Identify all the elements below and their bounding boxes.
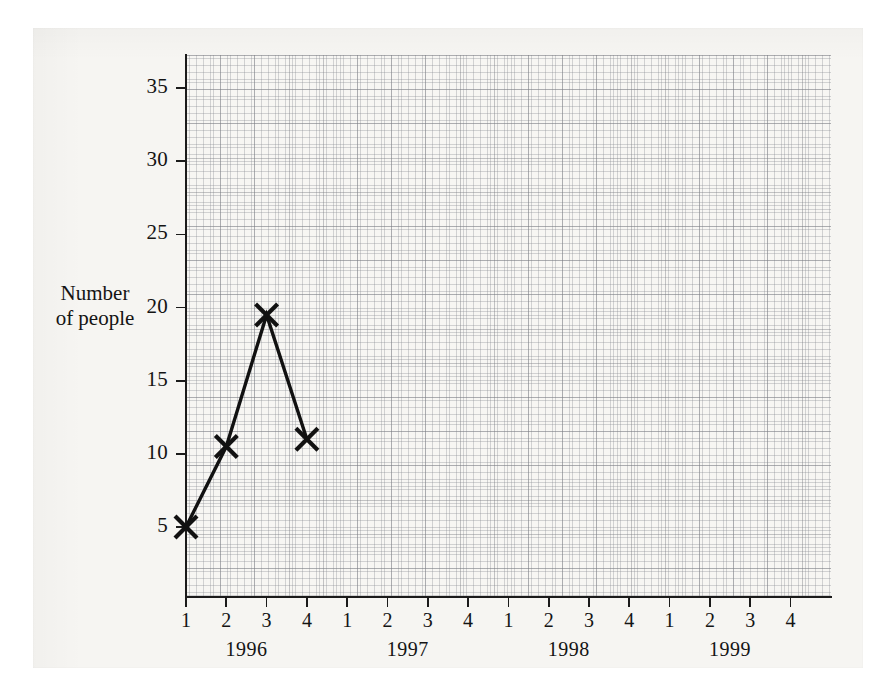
x-tick-q1 [669,597,671,607]
x-axis-year-label: 1996 [191,638,301,661]
x-axis-year-label: 1999 [675,638,785,661]
y-tick-25 [176,234,187,236]
plot-area-grid [186,55,831,597]
y-tick-30 [176,160,187,162]
x-tick-label: 4 [448,609,488,632]
x-tick-q2 [709,597,711,607]
x-tick-label: 1 [166,609,206,632]
x-tick-label: 1 [488,609,528,632]
y-tick-label: 25 [126,220,168,245]
x-tick-label: 4 [287,609,327,632]
y-tick-35 [176,87,187,89]
y-tick-label: 15 [126,367,168,392]
x-tick-q3 [266,597,268,607]
x-axis-year-label: 1997 [353,638,463,661]
scanned-chart-page: Number of people 5101520253035 123412341… [0,0,882,685]
x-tick-q3 [427,597,429,607]
y-axis-line [185,54,187,598]
x-tick-q2 [548,597,550,607]
x-tick-label: 3 [569,609,609,632]
x-tick-label: 3 [247,609,287,632]
y-tick-5 [176,526,187,528]
x-tick-q4 [467,597,469,607]
x-tick-q1 [185,597,187,607]
y-tick-label: 10 [126,440,168,465]
x-tick-label: 3 [408,609,448,632]
y-tick-label: 30 [126,147,168,172]
y-tick-label: 5 [126,513,168,538]
x-tick-q2 [225,597,227,607]
x-axis-year-label: 1998 [514,638,624,661]
x-tick-label: 2 [690,609,730,632]
x-tick-q4 [306,597,308,607]
x-tick-label: 3 [730,609,770,632]
y-tick-label: 20 [126,294,168,319]
x-tick-q3 [588,597,590,607]
y-tick-10 [176,453,187,455]
x-tick-label: 4 [771,609,811,632]
x-tick-q1 [346,597,348,607]
x-tick-q2 [387,597,389,607]
x-tick-label: 1 [327,609,367,632]
x-tick-q4 [790,597,792,607]
y-tick-15 [176,380,187,382]
x-tick-q1 [508,597,510,607]
x-tick-label: 4 [609,609,649,632]
x-tick-label: 1 [650,609,690,632]
x-tick-label: 2 [206,609,246,632]
x-tick-q3 [749,597,751,607]
x-tick-label: 2 [529,609,569,632]
x-tick-label: 2 [368,609,408,632]
y-tick-label: 35 [126,74,168,99]
x-tick-q4 [628,597,630,607]
y-tick-20 [176,307,187,309]
